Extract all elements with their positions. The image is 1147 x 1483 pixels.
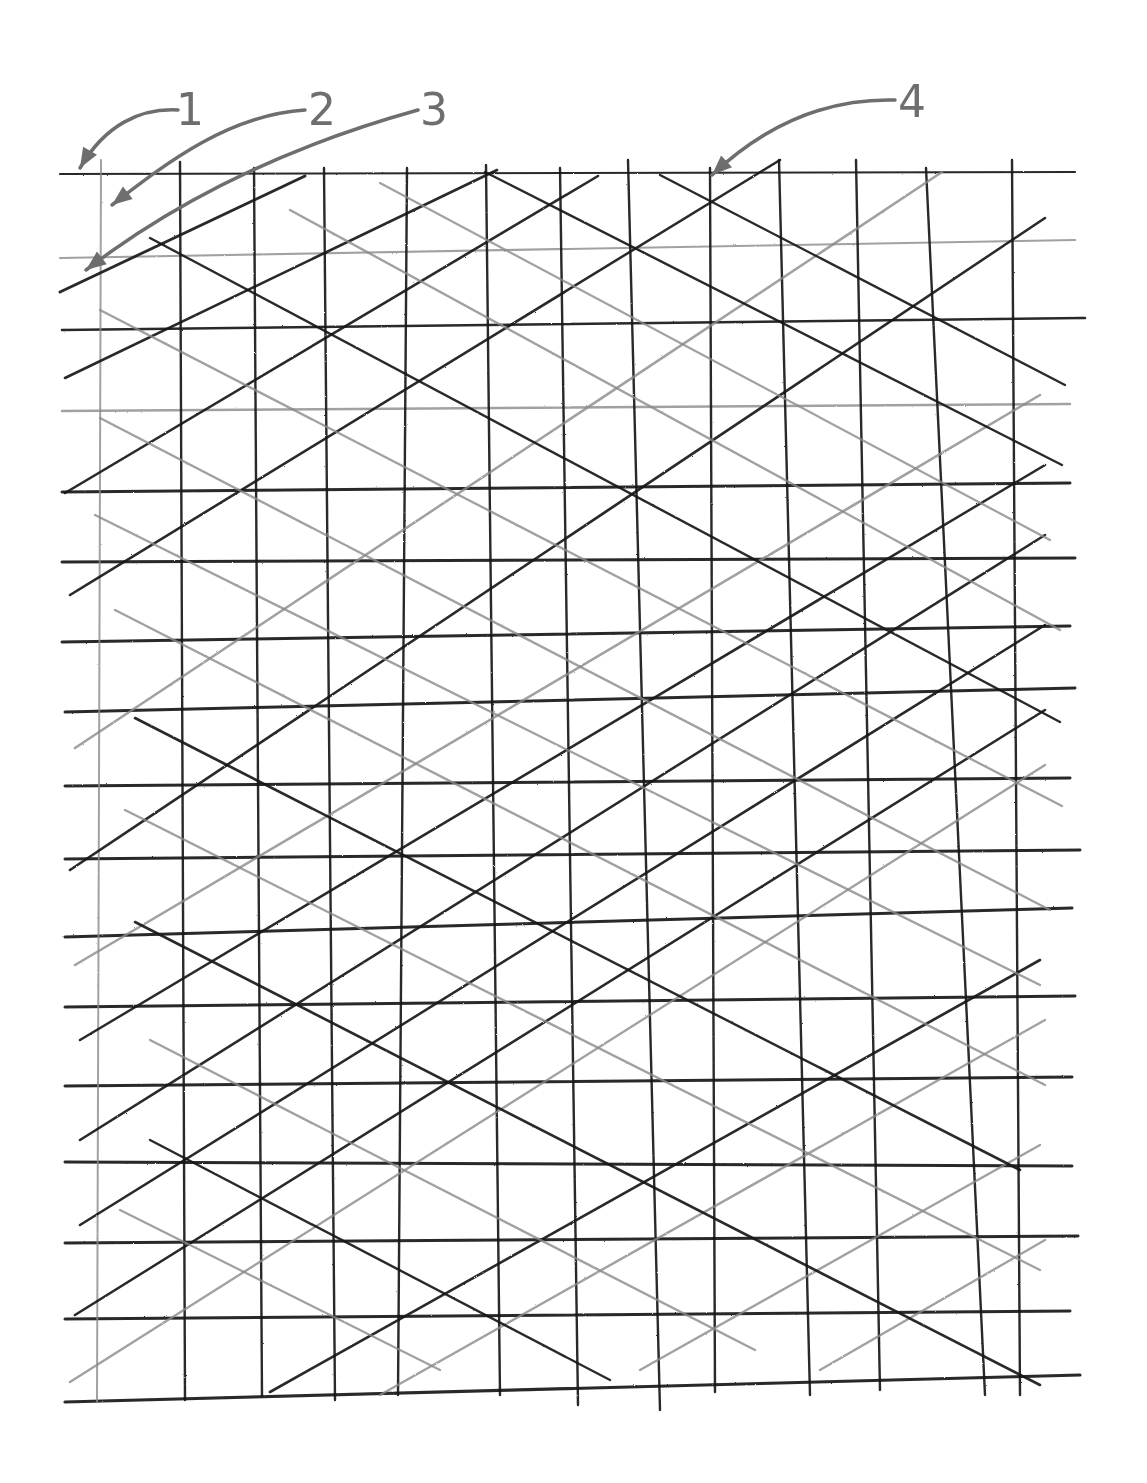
horizontal-line xyxy=(62,318,1085,330)
vertical-line xyxy=(398,168,407,1395)
rising-diagonal-line xyxy=(60,176,305,292)
arrowhead-icon xyxy=(86,251,107,270)
vertical-line xyxy=(856,160,880,1390)
falling-diagonal-line xyxy=(95,515,1040,985)
callout-leader-1 xyxy=(80,110,178,168)
rising-diagonal-lines xyxy=(60,160,1045,1395)
horizontal-line xyxy=(65,778,1070,786)
horizontal-line xyxy=(60,172,1075,174)
falling-diagonal-line xyxy=(100,418,1050,910)
callout-label-3: 3 xyxy=(420,88,448,132)
horizontal-line xyxy=(62,483,1070,492)
callout-leader-4 xyxy=(712,100,895,175)
rising-diagonal-line xyxy=(640,1145,1040,1370)
horizontal-line xyxy=(65,1236,1078,1243)
vertical-line xyxy=(97,160,101,1402)
vertical-line xyxy=(486,165,500,1395)
rising-diagonal-line xyxy=(80,465,1045,1040)
falling-diagonal-line xyxy=(125,810,1040,1270)
vertical-line xyxy=(180,162,185,1400)
callout-leader-3 xyxy=(86,110,418,270)
falling-diagonal-line xyxy=(120,1210,440,1370)
horizontal-line xyxy=(62,558,1075,562)
arrowhead-icon xyxy=(112,186,133,205)
rising-diagonal-line xyxy=(80,625,1045,1225)
vertical-line xyxy=(926,168,985,1395)
lattice-diagram xyxy=(0,0,1147,1483)
horizontal-line xyxy=(65,1162,1072,1166)
falling-diagonal-line xyxy=(135,718,1020,1170)
horizontal-line xyxy=(65,1375,1080,1402)
rising-diagonal-line xyxy=(70,160,780,595)
horizontal-lines xyxy=(60,172,1085,1402)
callout-label-2: 2 xyxy=(308,88,336,132)
rising-diagonal-line xyxy=(380,1020,1045,1395)
falling-diagonal-line xyxy=(150,1040,755,1350)
falling-diagonal-line xyxy=(660,175,1065,385)
callout-label-4: 4 xyxy=(898,80,926,124)
horizontal-line xyxy=(65,1077,1072,1086)
rising-diagonal-line xyxy=(820,1240,1045,1370)
falling-diagonal-line xyxy=(115,610,1045,1085)
rising-diagonal-line xyxy=(75,172,942,748)
rising-diagonal-line xyxy=(70,218,1045,870)
callout-label-1: 1 xyxy=(176,88,204,132)
horizontal-line xyxy=(60,240,1075,258)
